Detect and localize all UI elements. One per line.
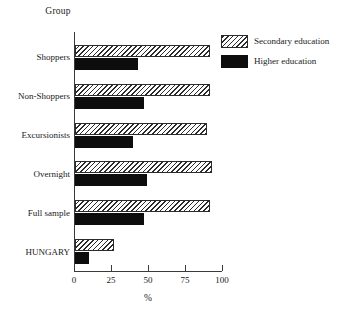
legend-label-higher-education: Higher education bbox=[254, 55, 316, 68]
x-axis-tick bbox=[222, 265, 223, 271]
bar-chart: Group 0255075100ShoppersNon-ShoppersExcu… bbox=[0, 0, 350, 320]
y-axis-category-label: Non-Shoppers bbox=[0, 91, 70, 101]
bar-secondary-education bbox=[75, 200, 210, 212]
bar-higher-education bbox=[75, 174, 147, 186]
y-axis-category-label: Full sample bbox=[0, 208, 70, 218]
bar-secondary-education bbox=[75, 239, 114, 251]
bar-higher-education bbox=[75, 252, 89, 264]
x-axis-tick-label: 50 bbox=[133, 275, 163, 285]
bar-secondary-education bbox=[75, 45, 210, 57]
y-axis-category-label: HUNGARY bbox=[0, 247, 70, 257]
legend-item-secondary-education: Secondary education bbox=[221, 34, 349, 54]
bar-higher-education bbox=[75, 213, 144, 225]
legend-label-secondary-education: Secondary education bbox=[254, 35, 329, 48]
bar-higher-education bbox=[75, 58, 138, 70]
bar-higher-education bbox=[75, 136, 133, 148]
bar-secondary-education bbox=[75, 84, 210, 96]
x-axis-tick-label: 25 bbox=[96, 275, 126, 285]
bar-higher-education bbox=[75, 97, 144, 109]
x-axis-tick-label: 75 bbox=[170, 275, 200, 285]
y-axis-title: Group bbox=[34, 6, 82, 16]
x-axis-title: % bbox=[118, 293, 178, 303]
bar-secondary-education bbox=[75, 123, 207, 135]
x-axis-tick-label: 100 bbox=[207, 275, 237, 285]
x-axis-tick bbox=[74, 265, 75, 271]
x-axis-tick bbox=[148, 265, 149, 271]
solid-swatch-icon bbox=[221, 55, 248, 68]
x-axis-tick bbox=[185, 265, 186, 271]
hatch-swatch-icon bbox=[221, 35, 248, 48]
y-axis-category-label: Shoppers bbox=[0, 52, 70, 62]
x-axis-tick bbox=[111, 265, 112, 271]
x-axis-line bbox=[74, 271, 222, 272]
chart-legend: Secondary education Higher education bbox=[221, 34, 349, 74]
x-axis-tick-label: 0 bbox=[59, 275, 89, 285]
y-axis-category-label: Excursionists bbox=[0, 130, 70, 140]
y-axis-category-label: Overnight bbox=[0, 169, 70, 179]
bar-secondary-education bbox=[75, 161, 212, 173]
legend-item-higher-education: Higher education bbox=[221, 54, 349, 74]
